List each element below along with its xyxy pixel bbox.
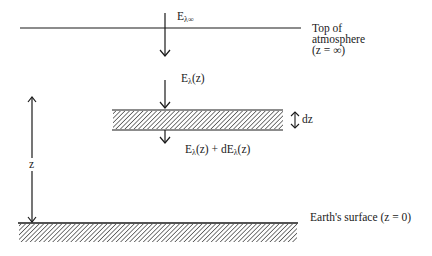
- layer-thickness-label: dz: [302, 114, 313, 125]
- height-label: z: [29, 158, 34, 171]
- irradiance-below-label: Eλ(z) + dEλ(z): [185, 144, 250, 155]
- earth-surface-hatch: [19, 224, 297, 242]
- atmospheric-layer-hatch: [113, 111, 283, 129]
- incident-irradiance-label: Eλ∞: [177, 11, 194, 22]
- top-of-atmosphere-label: Top of atmosphere (z = ∞): [312, 23, 365, 56]
- earth-surface-label: Earth's surface (z = 0): [310, 212, 411, 223]
- irradiance-at-z-label: Eλ(z): [181, 73, 205, 84]
